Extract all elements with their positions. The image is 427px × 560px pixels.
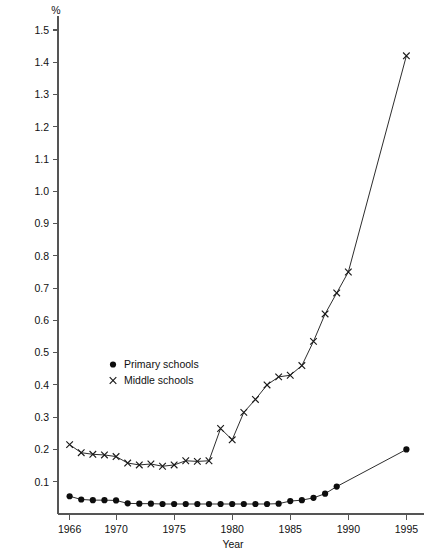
x-tick-label: 1970: [104, 523, 128, 535]
legend-label: Primary schools: [124, 358, 199, 370]
data-point-marker: [66, 441, 73, 448]
data-point-marker: [67, 493, 73, 499]
data-point-marker: [241, 409, 248, 416]
data-point-marker: [125, 500, 131, 506]
data-point-marker: [206, 501, 212, 507]
data-point-marker: [252, 396, 259, 403]
legend-marker-middle-schools: [110, 377, 117, 384]
data-point-marker: [264, 501, 270, 507]
data-point-marker: [229, 436, 236, 443]
data-point-marker: [299, 362, 306, 369]
data-point-marker: [241, 501, 247, 507]
y-tick-label: 0.5: [34, 346, 49, 358]
data-point-marker: [229, 501, 235, 507]
y-tick-label: 1.0: [34, 185, 49, 197]
data-point-marker: [148, 501, 154, 507]
data-point-marker: [101, 497, 107, 503]
data-point-marker: [334, 483, 340, 489]
series-middle-schools: [66, 53, 409, 470]
y-axis-ticks: 0.10.20.30.40.50.60.70.80.91.01.11.21.31…: [34, 24, 58, 488]
data-point-marker: [217, 501, 223, 507]
x-tick-label: 1975: [162, 523, 186, 535]
y-tick-label: 0.3: [34, 411, 49, 423]
series-line: [70, 56, 407, 466]
data-point-marker: [264, 382, 271, 389]
legend-label: Middle schools: [124, 374, 193, 386]
data-point-marker: [287, 498, 293, 504]
data-point-marker: [333, 290, 340, 297]
x-tick-label: 1995: [395, 523, 419, 535]
data-point-marker: [403, 53, 410, 60]
data-point-marker: [310, 338, 317, 345]
x-tick-label: 1990: [337, 523, 361, 535]
data-point-marker: [322, 311, 329, 318]
y-axis-unit-label: %: [51, 4, 60, 16]
y-tick-label: 0.4: [34, 379, 49, 391]
y-tick-label: 0.2: [34, 443, 49, 455]
data-point-marker: [136, 501, 142, 507]
series-line: [70, 449, 407, 504]
data-point-marker: [345, 269, 352, 276]
line-chart: 0.10.20.30.40.50.60.70.80.91.01.11.21.31…: [0, 0, 427, 560]
chart-container: 0.10.20.30.40.50.60.70.80.91.01.11.21.31…: [0, 0, 427, 560]
y-tick-label: 1.4: [34, 56, 49, 68]
data-point-marker: [90, 497, 96, 503]
y-tick-label: 1.1: [34, 153, 49, 165]
x-axis-title: Year: [222, 538, 244, 550]
data-point-marker: [159, 501, 165, 507]
y-axis-group: 0.10.20.30.40.50.60.70.80.91.01.11.21.31…: [34, 16, 58, 514]
legend-marker-primary-schools: [110, 361, 116, 367]
y-tick-label: 0.9: [34, 217, 49, 229]
x-tick-label: 1966: [58, 523, 82, 535]
data-point-marker: [78, 496, 84, 502]
y-tick-label: 1.3: [34, 88, 49, 100]
y-tick-label: 0.1: [34, 476, 49, 488]
data-point-marker: [310, 495, 316, 501]
y-tick-label: 0.7: [34, 282, 49, 294]
y-tick-label: 0.6: [34, 314, 49, 326]
y-tick-label: 0.8: [34, 250, 49, 262]
data-point-marker: [113, 497, 119, 503]
x-tick-label: 1985: [279, 523, 303, 535]
data-point-marker: [299, 497, 305, 503]
y-tick-label: 1.5: [34, 24, 49, 36]
data-point-marker: [276, 501, 282, 507]
data-point-marker: [217, 425, 224, 432]
data-point-marker: [171, 501, 177, 507]
data-point-marker: [183, 501, 189, 507]
x-axis-ticks: 1966197019751980198519901995: [58, 514, 418, 535]
x-axis-group: 1966197019751980198519901995: [58, 514, 424, 535]
data-point-marker: [322, 491, 328, 497]
series-layer: [66, 53, 409, 508]
data-point-marker: [403, 446, 409, 452]
chart-legend: Primary schoolsMiddle schools: [110, 358, 199, 386]
x-tick-label: 1980: [221, 523, 245, 535]
y-tick-label: 1.2: [34, 121, 49, 133]
data-point-marker: [252, 501, 258, 507]
data-point-marker: [194, 501, 200, 507]
